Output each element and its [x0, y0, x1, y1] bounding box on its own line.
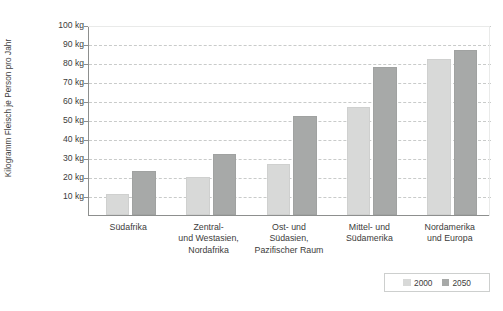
- category-label-line: Ost- und: [249, 222, 329, 233]
- category-label-line: Zentral-: [168, 222, 248, 233]
- gridline: [89, 26, 491, 27]
- y-axis-tick-group: 100 kg90 kg80 kg70 kg60 kg50 kg40 kg30 k…: [38, 26, 84, 216]
- bar-2050-3: [373, 67, 397, 215]
- x-axis-category-label-4: Nordamerikaund Europa: [410, 222, 490, 245]
- category-label-line: Mittel- und: [329, 222, 409, 233]
- bar-2000-4: [427, 59, 451, 215]
- y-axis-title: Kilogramm Fleisch je Person pro Jahr: [0, 0, 16, 216]
- bar-2050-4: [454, 50, 478, 215]
- x-axis-category-label-0: Südafrika: [88, 222, 168, 233]
- plot-area: [88, 26, 490, 216]
- x-axis-category-labels: SüdafrikaZentral-und Westasien,Nordafrik…: [88, 222, 490, 272]
- legend-label: 2050: [453, 278, 471, 288]
- y-axis-tick-label: 20 kg: [40, 172, 84, 182]
- category-label-line: Nordafrika: [168, 245, 248, 256]
- bar-2000-1: [186, 177, 210, 215]
- x-axis-category-label-1: Zentral-und Westasien,Nordafrika: [168, 222, 248, 256]
- y-axis-tick-label: 100 kg: [40, 20, 84, 30]
- bar-2050-1: [213, 154, 237, 215]
- y-axis-tick-label: 70 kg: [40, 77, 84, 87]
- category-label-line: Südamerika: [329, 233, 409, 244]
- category-label-line: Nordamerika: [410, 222, 490, 233]
- category-label-line: Südasien,: [249, 233, 329, 244]
- bar-2000-2: [267, 164, 291, 215]
- y-axis-tick-label: 30 kg: [40, 153, 84, 163]
- y-axis-tick-label: 10 kg: [40, 191, 84, 201]
- y-axis-title-text: Kilogramm Fleisch je Person pro Jahr: [4, 39, 13, 177]
- legend-item-2000[interactable]: 2000: [403, 278, 432, 288]
- y-axis-tick-label: 60 kg: [40, 96, 84, 106]
- legend-item-2050[interactable]: 2050: [442, 278, 471, 288]
- bar-2050-2: [293, 116, 317, 215]
- bar-2050-0: [132, 171, 156, 215]
- y-axis-tick-label: 80 kg: [40, 58, 84, 68]
- legend-swatch-icon: [403, 279, 411, 287]
- chart-figure: Kilogramm Fleisch je Person pro Jahr 100…: [0, 0, 503, 311]
- category-label-line: und Westasien,: [168, 233, 248, 244]
- bar-2000-3: [347, 107, 371, 215]
- category-label-line: Südafrika: [88, 222, 168, 233]
- x-axis-category-label-3: Mittel- undSüdamerika: [329, 222, 409, 245]
- y-axis-tick-label: 40 kg: [40, 134, 84, 144]
- category-label-line: und Europa: [410, 233, 490, 244]
- y-axis-tick-label: 90 kg: [40, 39, 84, 49]
- bar-2000-0: [106, 194, 130, 215]
- category-label-line: Pazifischer Raum: [249, 245, 329, 256]
- y-axis-tick-label: 50 kg: [40, 115, 84, 125]
- gridline: [89, 45, 491, 46]
- legend-swatch-icon: [442, 279, 450, 287]
- legend-label: 2000: [414, 278, 432, 288]
- x-axis-category-label-2: Ost- undSüdasien,Pazifischer Raum: [249, 222, 329, 256]
- chart-legend[interactable]: 20002050: [384, 273, 490, 292]
